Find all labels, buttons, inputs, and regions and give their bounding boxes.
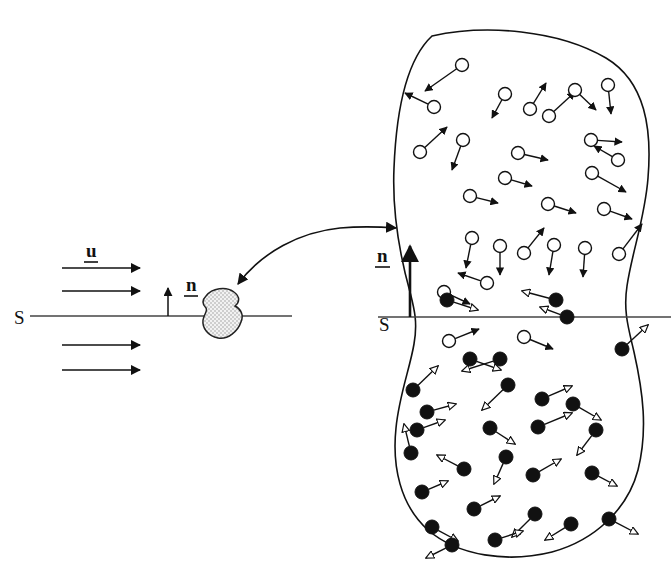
- velocity-vector: [540, 307, 560, 315]
- velocity-vector: [428, 481, 448, 489]
- velocity-vector: [434, 404, 456, 410]
- molecule-filled: [540, 307, 574, 324]
- molecule-open: [452, 134, 470, 171]
- velocity-vector: [476, 198, 498, 203]
- velocity-vector: [425, 69, 457, 91]
- velocity-vector: [580, 94, 596, 110]
- molecule-filled: [585, 466, 617, 486]
- molecule-open: [542, 198, 577, 214]
- molecule-open: [548, 239, 561, 276]
- flow-arrow-group: [62, 268, 140, 370]
- velocity-vector: [594, 146, 612, 157]
- molecule-open: [443, 329, 480, 348]
- velocity-vector: [598, 476, 617, 486]
- open-molecule: [414, 146, 427, 159]
- velocity-vector: [466, 244, 471, 268]
- velocity-vector: [545, 528, 565, 540]
- filled-molecule: [589, 423, 603, 437]
- filled-molecule: [528, 507, 542, 521]
- molecule-filled: [526, 459, 561, 482]
- molecule-filled: [615, 325, 648, 356]
- velocity-vector: [418, 366, 438, 385]
- open-molecule: [428, 101, 441, 114]
- molecule-open: [492, 88, 512, 119]
- filled-molecule: [410, 423, 424, 437]
- filled-molecule: [467, 502, 481, 516]
- velocity-vector: [579, 407, 601, 420]
- open-molecule: [494, 240, 507, 253]
- left-panel: S u n: [14, 240, 292, 370]
- molecule-filled: [488, 531, 523, 547]
- velocity-vector: [609, 91, 611, 114]
- filled-molecule: [483, 421, 497, 435]
- molecule-open: [518, 331, 554, 350]
- velocity-vector: [424, 420, 445, 428]
- open-molecule: [569, 84, 582, 97]
- open-molecule: [443, 335, 456, 348]
- molecule-open: [414, 127, 448, 159]
- velocity-vector: [554, 206, 576, 213]
- filled-molecule: [493, 352, 507, 366]
- molecule-filled: [566, 397, 601, 420]
- molecule-filled: [467, 496, 500, 516]
- open-molecule: [613, 248, 626, 261]
- velocity-vector: [458, 273, 481, 281]
- filled-molecule: [445, 538, 459, 552]
- open-molecule: [542, 198, 555, 211]
- filled-molecule: [615, 342, 629, 356]
- molecule-open: [524, 83, 547, 116]
- velocity-vector: [425, 127, 447, 148]
- velocity-vector: [533, 83, 546, 103]
- molecule-open: [586, 167, 627, 193]
- velocity-vector: [404, 424, 409, 446]
- molecule-open: [579, 242, 592, 278]
- filled-molecule: [549, 293, 563, 307]
- molecule-filled: [420, 404, 456, 419]
- velocity-vector: [544, 413, 572, 424]
- right-panel: S n: [375, 30, 671, 558]
- velocity-vector: [452, 146, 461, 170]
- open-molecule: [457, 134, 470, 147]
- open-molecule: [464, 190, 477, 203]
- open-molecule-group: [405, 59, 642, 350]
- molecule-filled: [602, 512, 638, 534]
- filled-molecule: [457, 462, 471, 476]
- velocity-vector: [480, 496, 500, 506]
- molecule-open: [425, 59, 469, 92]
- velocity-vector: [482, 390, 503, 410]
- molecule-open: [494, 240, 507, 276]
- filled-molecule: [602, 512, 616, 526]
- molecule-filled: [531, 413, 572, 434]
- molecule-filled: [437, 455, 471, 476]
- molecule-filled: [406, 366, 438, 397]
- fluid-element-blob: [203, 289, 242, 339]
- molecule-filled: [545, 517, 578, 540]
- velocity-vector: [548, 386, 572, 396]
- open-molecule: [612, 154, 625, 167]
- velocity-vector: [524, 154, 548, 160]
- velocity-vector: [437, 455, 458, 466]
- kinetic-flux-diagram: S u n S: [0, 0, 671, 569]
- molecule-filled: [482, 378, 515, 410]
- velocity-vector: [598, 176, 626, 192]
- filled-molecule: [440, 293, 454, 307]
- filled-molecule: [531, 420, 545, 434]
- open-molecule: [598, 203, 611, 216]
- molecule-open: [518, 228, 545, 260]
- velocity-vector: [610, 211, 632, 219]
- velocity-vector: [539, 459, 561, 472]
- open-molecule: [512, 147, 525, 160]
- molecule-open: [458, 273, 494, 290]
- open-molecule: [456, 59, 469, 72]
- open-molecule: [602, 79, 615, 92]
- filled-molecule: [406, 383, 420, 397]
- magnification-link-arrow[interactable]: [238, 227, 396, 284]
- open-molecule: [518, 331, 531, 344]
- filled-molecule: [526, 468, 540, 482]
- molecule-open: [594, 146, 625, 167]
- velocity-vector: [454, 302, 478, 310]
- molecule-open: [464, 190, 499, 204]
- surface-label-left: S: [14, 307, 25, 328]
- velocity-vector: [549, 251, 553, 275]
- velocity-vector: [405, 93, 428, 104]
